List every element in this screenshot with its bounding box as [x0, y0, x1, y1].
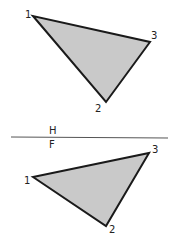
top-vertex-2-label: 2	[95, 103, 101, 114]
front-vertex-2-label: 2	[109, 224, 115, 235]
top-vertex-1-label: 1	[25, 9, 31, 20]
fold-line	[11, 137, 168, 138]
orthographic-projection-diagram: 1 2 3 H F 1 2 3	[0, 0, 176, 240]
front-vertex-1-label: 1	[24, 175, 30, 186]
top-view-triangle	[33, 16, 150, 102]
top-vertex-3-label: 3	[151, 30, 157, 41]
front-view-triangle	[33, 153, 149, 226]
front-vertex-3-label: 3	[152, 144, 158, 155]
fold-label-f: F	[49, 139, 55, 150]
fold-label-h: H	[49, 125, 57, 136]
